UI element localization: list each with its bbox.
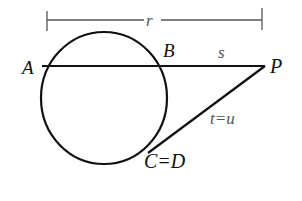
label-p: P: [269, 55, 282, 77]
label-c-equals-d: C=D: [144, 150, 186, 172]
circle: [41, 32, 167, 164]
label-r: r: [146, 11, 153, 30]
secant-tangent-diagram: r A B s P t=u C=D: [0, 0, 302, 201]
label-b: B: [163, 40, 175, 61]
label-a: A: [20, 57, 34, 78]
label-t-equals-u: t=u: [210, 109, 235, 128]
label-s: s: [218, 43, 225, 62]
dimension-r: [47, 8, 262, 31]
